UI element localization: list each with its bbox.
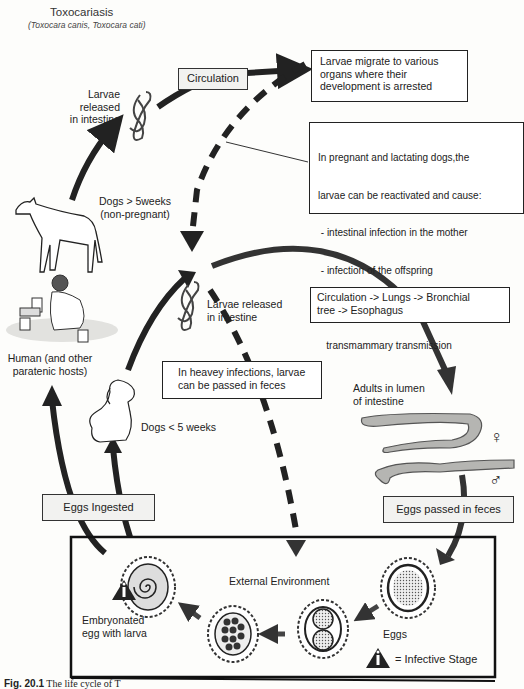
puppy-icon <box>90 380 135 442</box>
label-line: Dogs > 5weeks <box>90 195 180 208</box>
label-line: Larvae released <box>207 298 282 311</box>
egg-embryonated-icon <box>121 557 175 617</box>
infective-stage-legend-label: = Infective Stage <box>395 653 477 666</box>
figure-caption-text: The life cycle of T <box>46 678 120 689</box>
label-line: - intestinal infection in the mother <box>318 227 515 240</box>
label-line: of intestine <box>353 395 425 408</box>
label-line: paratenic hosts) <box>2 365 98 378</box>
arrow-morula-to-embryonated <box>186 608 200 618</box>
label-line: (non-pregnant) <box>90 208 180 221</box>
label-line: Circulation -> Lungs -> Bronchial <box>317 291 503 304</box>
larvae-released-top-label: Larvae released in intestine <box>40 88 120 126</box>
label-line: transmammary transmission <box>318 340 515 353</box>
label-line: In pregnant and lactating dogs,the <box>318 152 515 165</box>
dogs-over-5-weeks-label: Dogs > 5weeks (non-pregnant) <box>90 195 180 220</box>
label-line: Larvae <box>40 88 120 101</box>
egg-two-cell-icon <box>298 600 348 658</box>
eggs-passed-box: Eggs passed in feces <box>383 496 514 523</box>
egg-unembryonated-icon <box>381 558 435 618</box>
label-line: in intestine <box>40 113 120 126</box>
pointer-line <box>226 142 308 162</box>
dashed-arrow-reactivation <box>180 64 305 252</box>
circulation-box: Circulation <box>178 68 248 90</box>
arrow-egg-to-two-cell <box>362 606 378 616</box>
embryonated-egg-label: Embryonated egg with larva <box>82 614 147 639</box>
eggs-label: Eggs <box>383 628 407 641</box>
larva-coil-mid-icon <box>178 282 199 330</box>
diagram-subtitle: (Toxocara canis, Toxocara cati) <box>28 20 145 30</box>
figure-caption: Fig. 20.1 The life cycle of T <box>4 678 121 689</box>
label-line: Human (and other <box>2 352 98 365</box>
label-line: in intestine <box>207 311 282 324</box>
male-symbol: ♂ <box>489 470 503 491</box>
label-line: Embryonated <box>82 614 147 627</box>
label-line: Adults in lumen <box>353 382 425 395</box>
label-line: can be passed in feces <box>178 379 306 392</box>
label-line: egg with larva <box>82 627 147 640</box>
eggs-ingested-box: Eggs Ingested <box>42 494 155 521</box>
dogs-under-5-weeks-label: Dogs < 5 weeks <box>141 421 216 434</box>
larva-coil-top-icon <box>130 92 151 140</box>
dashed-arrow-heavy-infection <box>210 290 306 557</box>
label-line: tree -> Esophagus <box>317 304 503 317</box>
external-environment-label: External Environment <box>229 575 329 588</box>
eggs-passed-label: Eggs passed in feces <box>396 503 501 515</box>
label-line: released <box>40 101 120 114</box>
label-line: larvae can be reactivated and cause: <box>318 190 515 203</box>
heavy-infections-box: In heavey infections, larvae can be pass… <box>162 361 322 399</box>
figure-number: Fig. 20.1 <box>4 678 44 689</box>
label-line: organs where their <box>320 68 459 81</box>
circulation-label: Circulation <box>187 72 239 84</box>
human-child-icon <box>6 275 118 342</box>
adults-in-lumen-label: Adults in lumen of intestine <box>353 382 425 407</box>
egg-morula-icon <box>208 606 258 662</box>
label-line: development is arrested <box>320 80 459 93</box>
pregnant-dogs-note-box: In pregnant and lactating dogs,the larva… <box>309 122 524 214</box>
label-line: In heavey infections, larvae <box>178 366 306 379</box>
arrow-dog-to-larvae-top <box>72 128 112 200</box>
circulation-lungs-box: Circulation -> Lungs -> Bronchial tree -… <box>310 287 510 323</box>
infective-stage-legend-icon <box>366 648 390 668</box>
larvae-released-mid-label: Larvae released in intestine <box>207 298 282 323</box>
caption-rule <box>71 678 495 681</box>
larvae-migrate-box: Larvae migrate to various organs where t… <box>311 50 468 102</box>
label-line: Larvae migrate to various <box>320 55 459 68</box>
arrow-egg-to-human <box>42 385 105 553</box>
human-hosts-label: Human (and other paratenic hosts) <box>2 352 98 377</box>
female-symbol: ♀ <box>490 427 504 448</box>
label-line: - infection of the offspring <box>318 265 515 278</box>
arrow-egg-to-puppy <box>104 436 130 537</box>
eggs-ingested-label: Eggs Ingested <box>63 501 133 513</box>
diagram-title: Toxocariasis <box>50 6 113 18</box>
